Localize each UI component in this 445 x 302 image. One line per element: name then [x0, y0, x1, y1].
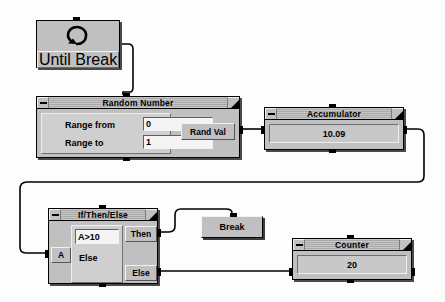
port-until-break-top[interactable] — [73, 17, 80, 21]
minimize-icon[interactable] — [49, 209, 61, 220]
wire-untilbreak-to-randomnumber — [120, 44, 133, 95]
port-else-right[interactable] — [157, 268, 161, 276]
counter-titlebar[interactable]: Counter — [293, 239, 411, 251]
port-then-right[interactable] — [157, 229, 161, 237]
loop-arrow-icon — [37, 21, 119, 51]
accumulator-title: Accumulator — [277, 108, 391, 119]
break-button[interactable]: Break — [201, 216, 263, 238]
node-random-number[interactable]: Random Number Range from 0 Range to 1 Ra… — [36, 96, 240, 158]
port-accumulator-right[interactable] — [403, 126, 407, 134]
minimize-icon[interactable] — [265, 108, 277, 119]
break-label: Break — [219, 222, 244, 232]
port-counter-bottom[interactable] — [347, 279, 354, 283]
else-output-port[interactable]: Else — [125, 265, 157, 281]
resize-grip-icon[interactable] — [399, 239, 411, 250]
else-static-label: Else — [79, 253, 98, 263]
range-to-label: Range to — [65, 138, 104, 148]
port-if-then-else-top[interactable] — [99, 205, 106, 209]
node-accumulator[interactable]: Accumulator 10.09 — [264, 107, 404, 150]
node-until-break[interactable]: Until Break — [36, 20, 120, 68]
port-random-number-top[interactable] — [123, 93, 130, 97]
until-break-label: Until Break — [39, 51, 117, 69]
if-then-else-title: If/Then/Else — [61, 209, 145, 220]
port-if-then-else-bottom[interactable] — [99, 283, 106, 287]
port-accumulator-top[interactable] — [329, 104, 336, 108]
node-if-then-else[interactable]: If/Then/Else A A>10 Else Then Else — [48, 208, 158, 284]
accumulator-value: 10.09 — [269, 124, 399, 143]
port-counter-left[interactable] — [289, 268, 293, 276]
counter-title: Counter — [305, 239, 399, 250]
port-counter-top[interactable] — [347, 235, 354, 239]
accumulator-titlebar[interactable]: Accumulator — [265, 108, 403, 120]
minimize-icon[interactable] — [293, 239, 305, 250]
rand-val-output-port[interactable]: Rand Val — [181, 123, 235, 140]
counter-value: 20 — [297, 255, 407, 274]
resize-grip-icon[interactable] — [145, 209, 157, 220]
port-break-top[interactable] — [230, 213, 237, 217]
then-output-port[interactable]: Then — [125, 226, 157, 242]
until-break-label-plate: Until Break — [37, 51, 119, 68]
port-counter-right[interactable] — [411, 268, 415, 276]
port-a-left[interactable] — [45, 250, 49, 258]
random-number-title: Random Number — [49, 97, 227, 108]
accumulator-body: 10.09 — [265, 120, 403, 147]
range-from-label: Range from — [65, 120, 115, 130]
resize-grip-icon[interactable] — [227, 97, 239, 108]
if-then-else-titlebar[interactable]: If/Then/Else — [49, 209, 157, 221]
port-random-number-bottom[interactable] — [123, 157, 130, 161]
node-counter[interactable]: Counter 20 — [292, 238, 412, 280]
diagram-canvas: Until Break Random Number Range from 0 R… — [0, 0, 445, 302]
minimize-icon[interactable] — [37, 97, 49, 108]
condition-input[interactable]: A>10 — [75, 229, 119, 244]
port-accumulator-left[interactable] — [261, 126, 265, 134]
input-port-a[interactable]: A — [51, 247, 71, 263]
port-accumulator-bottom[interactable] — [329, 149, 336, 153]
random-number-titlebar[interactable]: Random Number — [37, 97, 239, 109]
resize-grip-icon[interactable] — [391, 108, 403, 119]
counter-body: 20 — [293, 251, 411, 278]
port-rand-val[interactable] — [239, 126, 243, 134]
